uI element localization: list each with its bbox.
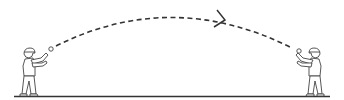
ball-right-icon xyxy=(297,49,301,53)
thrower-figure-icon xyxy=(20,48,48,96)
direction-arrow-icon xyxy=(214,10,225,27)
trajectory-arc xyxy=(56,17,292,48)
catcher-figure-icon xyxy=(296,48,324,96)
ball-left-icon xyxy=(49,47,53,51)
catch-diagram: Two figures playing catch; a ball travel… xyxy=(0,0,344,100)
